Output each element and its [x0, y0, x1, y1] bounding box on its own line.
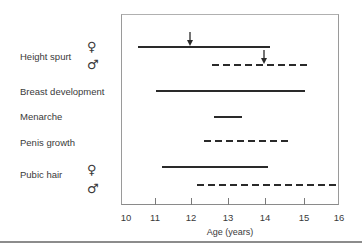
arrow-down-icon	[187, 32, 193, 46]
x-tick-label: 14	[260, 212, 271, 223]
bottom-divider	[0, 241, 362, 243]
plot-area	[0, 0, 362, 248]
arrow-down-icon	[261, 50, 267, 64]
x-tick-label: 12	[186, 212, 197, 223]
x-tick	[265, 198, 266, 205]
x-tick-label: 11	[150, 212, 160, 223]
x-tick-label: 16	[334, 212, 345, 223]
x-tick-label: 15	[299, 212, 310, 223]
x-tick-label: 13	[223, 212, 234, 223]
x-tick	[191, 198, 192, 205]
x-tick	[228, 198, 229, 205]
x-tick-label: 10	[121, 212, 132, 223]
x-tick	[155, 198, 156, 205]
x-axis-label: Age (years)	[207, 227, 254, 237]
x-tick	[304, 198, 305, 205]
